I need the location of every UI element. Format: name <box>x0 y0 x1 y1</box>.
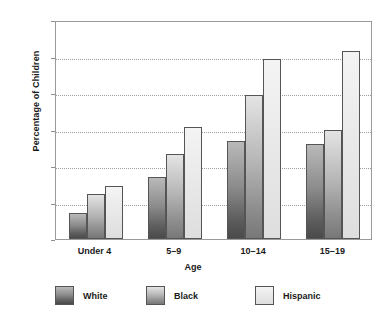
bar <box>166 154 184 239</box>
plot-area <box>55 21 372 240</box>
bar <box>245 95 263 239</box>
chart-legend: WhiteBlackHispanic <box>0 286 386 316</box>
legend-swatch <box>55 286 74 305</box>
bar <box>227 141 245 239</box>
bar <box>87 194 105 239</box>
bar <box>306 144 324 239</box>
legend-swatch <box>255 286 274 305</box>
legend-item: Hispanic <box>255 286 321 305</box>
legend-label: Black <box>174 291 198 301</box>
bar <box>105 186 123 239</box>
bar <box>69 213 87 239</box>
gridline <box>56 95 371 96</box>
x-axis-tick-label: Under 4 <box>78 246 112 256</box>
legend-label: White <box>83 291 108 301</box>
x-axis-title: Age <box>0 262 386 272</box>
legend-label: Hispanic <box>283 291 321 301</box>
legend-swatch <box>146 286 165 305</box>
x-axis-tick-label: 10–14 <box>241 246 266 256</box>
x-axis-tick-label: 15–19 <box>320 246 345 256</box>
y-axis-tick-mark <box>51 240 55 241</box>
bar <box>263 59 281 239</box>
bar-chart-figure: Percentage of Children 051015202530 Unde… <box>0 0 386 323</box>
bar <box>342 51 360 239</box>
y-axis-title: Percentage of Children <box>31 21 41 181</box>
bar <box>324 130 342 239</box>
gridline <box>56 59 371 60</box>
legend-item: Black <box>146 286 198 305</box>
x-axis-tick-label: 5–9 <box>166 246 181 256</box>
bar <box>148 177 166 239</box>
legend-item: White <box>55 286 108 305</box>
bar <box>184 127 202 239</box>
